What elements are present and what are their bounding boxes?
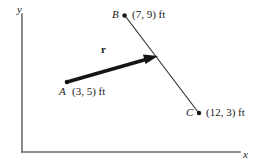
- point-label-a: A: [59, 86, 66, 97]
- point-label-c: C: [186, 107, 193, 118]
- point-coordinates-c: (12, 3) ft: [206, 107, 245, 118]
- point-label-b: B: [112, 9, 119, 20]
- point-marker-C: [197, 111, 201, 115]
- vector-r-arrowhead: [143, 55, 158, 65]
- point-marker-A: [65, 80, 70, 85]
- x-axis-label: x: [243, 149, 248, 160]
- line-b-to-c: [126, 17, 198, 112]
- point-coordinates-b: (7, 9) ft: [132, 9, 165, 20]
- vector-r-shaft: [67, 58, 151, 82]
- y-axis-label: y: [17, 4, 22, 15]
- point-coordinates-a: (3, 5) ft: [72, 86, 105, 97]
- vector-label-r: r: [101, 44, 106, 55]
- diagram-canvas: [0, 0, 259, 168]
- vector-diagram-figure: y x B (7, 9) ft A (3, 5) ft C (12, 3) ft…: [0, 0, 259, 168]
- point-marker-B: [122, 13, 126, 17]
